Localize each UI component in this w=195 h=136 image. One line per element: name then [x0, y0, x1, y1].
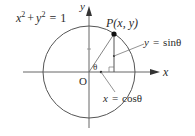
y-axis-label: y [79, 0, 85, 12]
right-angle-marker [109, 67, 114, 72]
x-axis-label: x [162, 65, 169, 79]
y-axis-arrow-icon [86, 6, 92, 16]
circle-equation: x2+y2=1 [15, 10, 66, 25]
point-p-label: P(x, y) [105, 16, 138, 30]
cos-label: x=cosθ [102, 92, 142, 104]
sin-label: y=sinθ [143, 36, 181, 48]
origin-label: O [79, 75, 87, 87]
unit-circle-diagram: x2+y2=1 y x O P(x, y) θ y=sinθ x=cosθ [0, 0, 195, 136]
cos-leader-line [101, 72, 115, 92]
theta-label: θ [93, 62, 97, 72]
x-axis-arrow-icon [150, 69, 160, 75]
point-p [111, 31, 116, 36]
sin-leader-line [114, 44, 144, 56]
